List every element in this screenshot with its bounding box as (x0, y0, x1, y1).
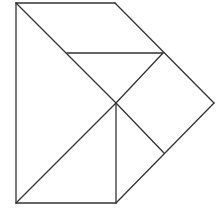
tangram-diagram (0, 0, 224, 217)
diagonal-lower-left-line (16, 103, 116, 203)
tangram-lines (16, 3, 214, 203)
diagonal-center-up-line (116, 53, 163, 103)
diagonal-center-down-line (116, 103, 164, 153)
